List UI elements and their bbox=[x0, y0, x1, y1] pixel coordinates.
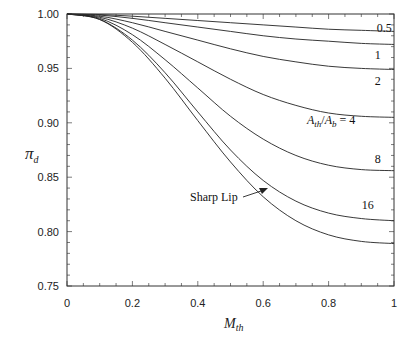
curve-8 bbox=[67, 14, 394, 171]
chart: 0.750.800.850.900.951.00 00.20.40.60.81 … bbox=[0, 0, 407, 339]
curves bbox=[67, 14, 394, 244]
x-tick-label: 0.6 bbox=[256, 297, 271, 309]
x-tick-label: 1 bbox=[391, 297, 397, 309]
area-ratio-label: Ath/Ab = 4 bbox=[306, 113, 355, 129]
y-tick-label: 0.90 bbox=[38, 117, 59, 129]
y-tick-labels: 0.750.800.850.900.951.00 bbox=[38, 8, 59, 292]
curve-label-2: 2 bbox=[375, 74, 381, 88]
y-tick-label: 0.75 bbox=[38, 280, 59, 292]
curve-label-8: 8 bbox=[375, 152, 381, 166]
y-axis-title: πd bbox=[25, 144, 40, 165]
curve-label-1: 1 bbox=[375, 48, 381, 62]
x-tick-labels: 00.20.40.60.81 bbox=[64, 297, 397, 309]
y-tick-label: 0.85 bbox=[38, 171, 59, 183]
x-tick-label: 0.2 bbox=[125, 297, 140, 309]
curve-label-0-5: 0.5 bbox=[377, 21, 392, 35]
x-tick-label: 0.8 bbox=[321, 297, 336, 309]
x-tick-label: 0.4 bbox=[190, 297, 205, 309]
sharp-lip-label: Sharp Lip bbox=[190, 190, 238, 204]
x-tick-label: 0 bbox=[64, 297, 70, 309]
y-tick-label: 0.95 bbox=[38, 62, 59, 74]
y-tick-label: 0.80 bbox=[38, 226, 59, 238]
curve-label-16: 16 bbox=[362, 198, 374, 212]
y-tick-label: 1.00 bbox=[38, 8, 59, 20]
x-axis-title: Mth bbox=[223, 316, 243, 333]
